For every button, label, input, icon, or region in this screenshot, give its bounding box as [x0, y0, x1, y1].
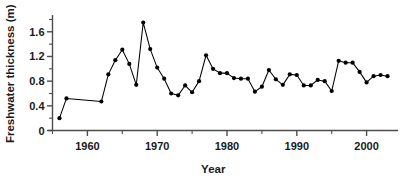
y-tick-label: 1.6	[29, 26, 44, 38]
data-point-marker	[204, 53, 208, 57]
data-point-marker	[141, 20, 145, 24]
x-axis-title: Year	[201, 163, 226, 175]
y-tick-label: 0.4	[29, 100, 45, 112]
data-point-marker	[246, 77, 250, 81]
data-point-marker	[344, 61, 348, 65]
data-point-marker	[218, 71, 222, 75]
data-point-marker	[225, 71, 229, 75]
x-tick-label: 1960	[75, 140, 99, 152]
data-point-marker	[162, 77, 166, 81]
data-point-marker	[57, 116, 61, 120]
data-point-marker	[127, 62, 131, 66]
data-point-marker	[169, 91, 173, 95]
data-point-marker	[211, 67, 215, 71]
data-point-marker	[239, 77, 243, 81]
data-point-marker	[288, 72, 292, 76]
data-point-marker	[371, 74, 375, 78]
y-axis-title: Freshwater thickness (m)	[4, 4, 16, 143]
data-point-marker	[260, 85, 264, 89]
data-point-marker	[106, 72, 110, 76]
data-point-marker	[281, 83, 285, 87]
data-point-marker	[134, 83, 138, 87]
data-point-marker	[378, 73, 382, 77]
data-point-marker	[197, 79, 201, 83]
data-point-marker	[120, 48, 124, 52]
series-line	[59, 23, 387, 119]
freshwater-thickness-chart: 00.40.81.21.619601970198019902000YearFre…	[0, 0, 406, 179]
data-point-marker	[99, 99, 103, 103]
data-point-marker	[323, 79, 327, 83]
data-point-marker	[316, 78, 320, 82]
data-point-marker	[267, 68, 271, 72]
data-point-marker	[364, 80, 368, 84]
data-point-marker	[351, 61, 355, 65]
x-tick-label: 2000	[354, 140, 378, 152]
data-point-marker	[232, 76, 236, 80]
data-point-marker	[155, 65, 159, 69]
x-tick-label: 1970	[145, 140, 169, 152]
data-point-marker	[330, 89, 334, 93]
data-point-marker	[148, 47, 152, 51]
data-point-marker	[64, 96, 68, 100]
data-point-marker	[190, 90, 194, 94]
data-point-marker	[183, 83, 187, 87]
data-point-marker	[113, 58, 117, 62]
data-point-marker	[295, 73, 299, 77]
data-point-marker	[253, 90, 257, 94]
data-point-marker	[176, 93, 180, 97]
data-point-marker	[302, 83, 306, 87]
x-tick-label: 1980	[215, 140, 239, 152]
data-point-marker	[274, 77, 278, 81]
data-point-marker	[337, 59, 341, 63]
chart-plot-area: 00.40.81.21.619601970198019902000YearFre…	[0, 0, 406, 179]
data-point-marker	[309, 83, 313, 87]
y-tick-label: 0.8	[29, 75, 44, 87]
data-point-marker	[358, 70, 362, 74]
data-point-marker	[385, 74, 389, 78]
y-tick-label: 0	[38, 125, 44, 137]
x-tick-label: 1990	[285, 140, 309, 152]
y-tick-label: 1.2	[29, 50, 44, 62]
